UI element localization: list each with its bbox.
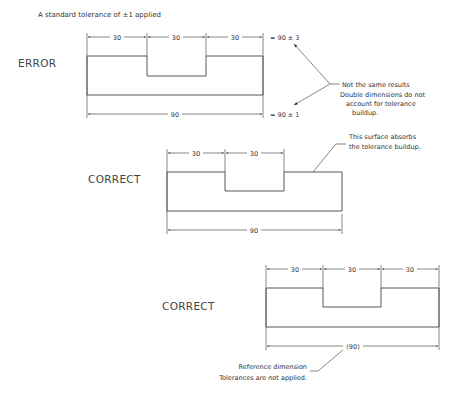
- correct-label: CORRECT: [162, 300, 215, 312]
- dimension-value: 30: [348, 266, 356, 274]
- correct-example-1: CORRECT 30 30 90 This surface absorbs th…: [88, 133, 421, 235]
- overall-dimension-value: 90: [250, 227, 258, 235]
- top-result: = 90 ± 3: [270, 34, 300, 42]
- overall-dimension-value: 90: [171, 111, 179, 119]
- reference-dimension-value: (90): [346, 343, 359, 351]
- note-line: account for tolerance: [346, 100, 416, 108]
- part-outline: [167, 172, 342, 211]
- note-line: Double dimensions do not: [340, 91, 425, 99]
- note-line: Tolerances are not applied.: [218, 374, 307, 382]
- leader-line: [310, 350, 343, 371]
- leader-arrow: [294, 44, 330, 84]
- note-title: Not the same results: [342, 81, 410, 89]
- tolerance-diagram: A standard tolerance of ±1 applied ERROR…: [0, 0, 464, 402]
- dimension-value: 30: [192, 150, 200, 158]
- dimension-value: 30: [291, 266, 299, 274]
- dimension-value: 30: [250, 150, 258, 158]
- dimension-value: 30: [231, 34, 239, 42]
- diagram-title: A standard tolerance of ±1 applied: [38, 11, 161, 19]
- correct-label: CORRECT: [88, 173, 141, 185]
- note-line: the tolerance buildup.: [349, 143, 421, 151]
- note-line: buildup.: [352, 109, 378, 117]
- error-example: ERROR 30 30 30 90 = 90 ± 3 = 90 ± 1 Not …: [18, 33, 425, 119]
- note-line: This surface absorbs: [348, 133, 417, 141]
- dimension-value: 30: [406, 266, 414, 274]
- leader-line: [313, 144, 346, 172]
- part-outline: [87, 56, 263, 95]
- note-line: Reference dimension: [239, 363, 307, 371]
- dimension-value: 30: [172, 34, 180, 42]
- bottom-result: = 90 ± 1: [270, 111, 300, 119]
- leader-arrow: [294, 84, 330, 105]
- correct-example-2: CORRECT 30 30 30 (90) Reference dimensio…: [162, 265, 439, 382]
- error-label: ERROR: [18, 57, 56, 69]
- dimension-value: 30: [113, 34, 121, 42]
- part-outline: [266, 288, 439, 327]
